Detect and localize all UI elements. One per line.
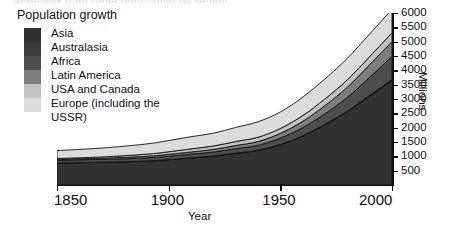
- x-tick-label: 1950: [262, 192, 295, 208]
- y-tick-label: 5000: [401, 36, 427, 47]
- y-tick-mark: [392, 113, 398, 114]
- x-tick-mark: [169, 184, 170, 191]
- x-tick-mark: [280, 184, 281, 191]
- legend-swatch: [24, 42, 41, 56]
- y-tick-mark: [392, 27, 398, 28]
- legend-swatch: [24, 98, 41, 112]
- y-tick-mark: [392, 171, 398, 172]
- y-tick-label: 6000: [401, 7, 427, 18]
- y-tick-mark: [392, 42, 398, 43]
- x-tick-label: 1850: [54, 192, 87, 208]
- x-tick-mark: [57, 184, 58, 191]
- y-tick-mark: [392, 142, 398, 143]
- y-tick-mark: [392, 128, 398, 129]
- legend-swatch: [24, 56, 41, 70]
- y-tick-mark: [392, 56, 398, 57]
- chart-root: appendix data table population by region…: [0, 0, 456, 234]
- y-tick-label: 1500: [401, 136, 427, 147]
- y-tick-label: 500: [401, 165, 420, 176]
- legend-swatch: [24, 70, 41, 84]
- y-tick-mark: [392, 85, 398, 86]
- legend-swatch-strip: [24, 28, 41, 112]
- y-tick-label: 5500: [401, 21, 427, 32]
- y-tick-label: 2000: [401, 122, 427, 133]
- y-tick-mark: [392, 13, 398, 14]
- stacked-area-plot: [57, 13, 392, 185]
- legend-swatch: [24, 28, 41, 42]
- x-axis-line: [57, 185, 393, 187]
- y-tick-mark: [392, 99, 398, 100]
- x-axis-title: Year: [188, 210, 211, 222]
- cropped-page-artifact: appendix data table population by region: [14, 0, 434, 3]
- y-tick-label: 1000: [401, 150, 427, 161]
- legend-swatch: [24, 84, 41, 98]
- x-tick-mark: [392, 184, 393, 191]
- y-tick-mark: [392, 70, 398, 71]
- x-tick-label: 1900: [151, 192, 184, 208]
- area-series-svg: [57, 13, 392, 185]
- y-axis-title: Millions: [417, 72, 429, 110]
- y-tick-label: 4500: [401, 50, 427, 61]
- x-tick-label: 2000: [359, 192, 392, 208]
- y-tick-mark: [392, 156, 398, 157]
